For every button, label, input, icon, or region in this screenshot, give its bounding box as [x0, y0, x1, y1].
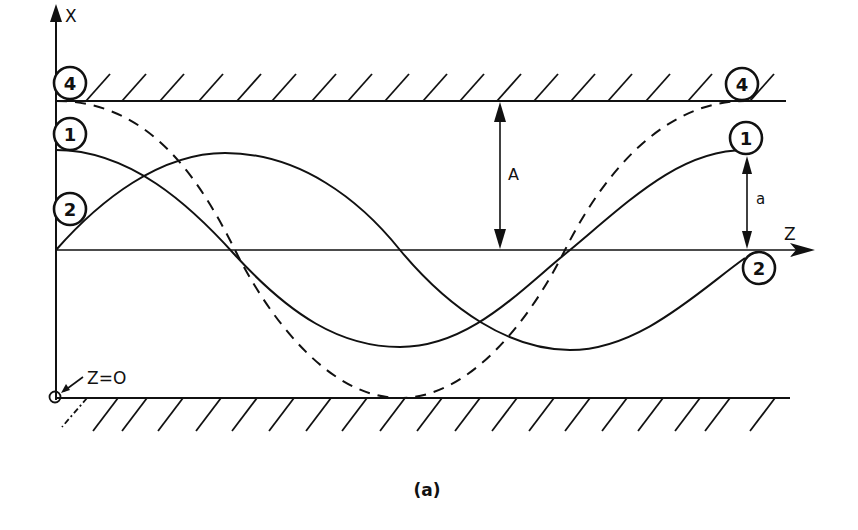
dimension-A-label: A — [508, 165, 519, 184]
z-axis-label: Z — [784, 224, 796, 244]
upper-wall — [56, 74, 786, 101]
x-axis-arrow-icon — [50, 4, 62, 22]
marker-1-left: 1 — [54, 118, 86, 150]
dimension-a-bottom-arrow-icon — [742, 231, 752, 249]
dimension-A: A — [494, 102, 519, 249]
upper-wall-hatching — [86, 74, 774, 101]
svg-text:2: 2 — [64, 199, 77, 220]
svg-text:4: 4 — [736, 74, 749, 95]
svg-text:2: 2 — [753, 258, 766, 279]
curve-2-solid — [56, 153, 745, 350]
origin-label: Z=O — [87, 368, 126, 388]
waveguide-diagram: X Z — [0, 0, 858, 530]
dimension-A-top-arrow-icon — [494, 102, 506, 122]
svg-text:1: 1 — [64, 124, 77, 145]
z-axis: Z — [56, 224, 815, 257]
svg-text:1: 1 — [740, 128, 753, 149]
curve-1-solid — [56, 150, 745, 347]
marker-4-left: 4 — [54, 67, 86, 99]
dimension-a-top-arrow-icon — [742, 156, 752, 174]
x-axis-label: X — [65, 6, 77, 26]
marker-2-left: 2 — [54, 193, 86, 225]
lower-wall — [56, 398, 790, 431]
marker-4-right: 4 — [726, 68, 758, 100]
lower-wall-hatching — [62, 398, 775, 431]
marker-1-right: 1 — [730, 122, 762, 154]
svg-text:4: 4 — [64, 73, 77, 94]
dimension-A-bottom-arrow-icon — [494, 229, 506, 249]
dimension-a: a — [742, 156, 765, 249]
marker-2-right: 2 — [743, 252, 775, 284]
dimension-a-label: a — [756, 190, 765, 208]
origin-arrow-icon — [61, 384, 70, 393]
figure-caption: (a) — [413, 480, 440, 500]
